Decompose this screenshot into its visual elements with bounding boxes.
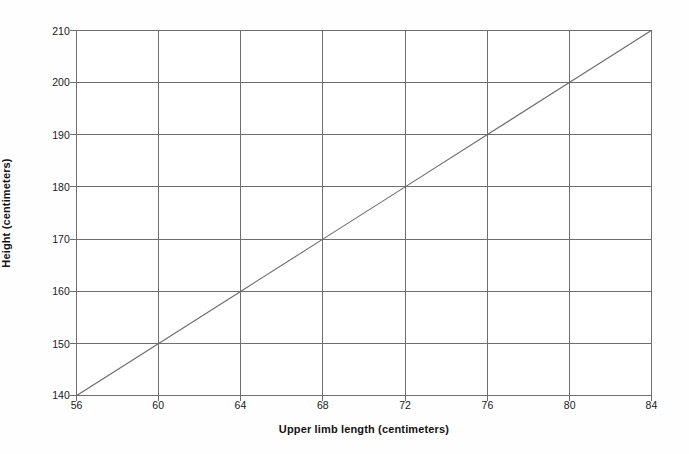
x-tick-label: 68 — [303, 400, 343, 411]
y-tick-label: 180 — [36, 182, 70, 193]
x-tick-label: 60 — [138, 400, 178, 411]
x-tick-label: 56 — [57, 400, 97, 411]
x-tick-label: 72 — [385, 400, 425, 411]
y-axis-title: Height (centimeters) — [0, 30, 18, 396]
y-tick-label: 150 — [36, 338, 70, 349]
x-tick-label: 84 — [631, 400, 671, 411]
x-axis-tick-labels: 56 60 64 68 72 76 80 84 — [76, 400, 652, 416]
y-tick-label: 200 — [36, 77, 70, 88]
y-tick-label: 170 — [36, 234, 70, 245]
x-tick-label: 76 — [467, 400, 507, 411]
y-tick-label: 210 — [36, 25, 70, 36]
y-tick-label: 160 — [36, 286, 70, 297]
chart-figure: 210 200 190 180 170 160 150 140 56 60 64… — [0, 0, 689, 454]
x-axis-title: Upper limb length (centimeters) — [76, 423, 652, 435]
x-tick-label: 80 — [550, 400, 590, 411]
tick-marks — [0, 0, 689, 454]
y-tick-label: 190 — [36, 129, 70, 140]
x-tick-label: 64 — [221, 400, 261, 411]
y-axis-tick-labels: 210 200 190 180 170 160 150 140 — [30, 30, 70, 396]
